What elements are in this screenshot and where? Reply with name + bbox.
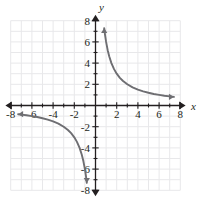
coordinate-plane: -8-6-4-224688642-2-4-6-8 x y (0, 0, 198, 198)
x-tick-label: -8 (6, 108, 16, 120)
y-axis-label: y (98, 1, 104, 13)
y-tick-label: 8 (85, 15, 91, 27)
x-tick-label: -6 (27, 108, 37, 120)
x-tick-label: -2 (70, 108, 79, 120)
x-tick-label: 4 (135, 108, 141, 120)
y-tick-label: -4 (81, 142, 91, 154)
x-tick-label: 8 (178, 108, 184, 120)
y-tick-label: 6 (85, 36, 91, 48)
x-tick-label: 2 (114, 108, 120, 120)
x-tick-label: -4 (49, 108, 59, 120)
y-tick-label: 4 (85, 57, 91, 69)
x-axis-label: x (190, 100, 196, 112)
branch-upper-right (104, 28, 174, 97)
graph-figure: -8-6-4-224688642-2-4-6-8 x y (0, 0, 198, 198)
y-tick-label: 2 (85, 78, 91, 90)
branch-lower-left (18, 114, 87, 183)
y-tick-label: -8 (81, 184, 91, 196)
x-tick-label: 6 (156, 108, 162, 120)
y-tick-label: -2 (81, 121, 90, 133)
